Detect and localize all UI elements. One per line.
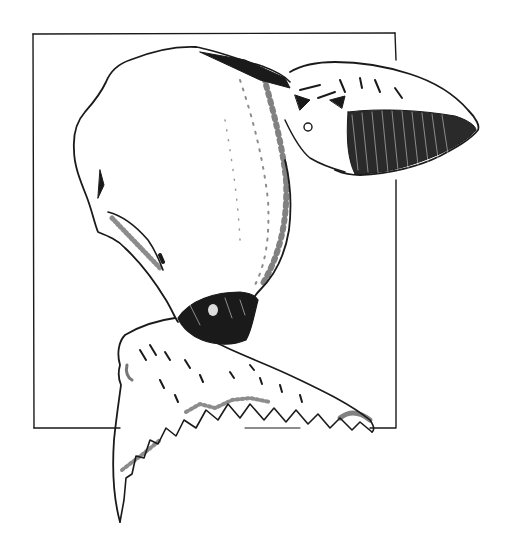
frame	[33, 33, 396, 428]
whale-illustration	[0, 0, 509, 556]
whale-neck-band	[178, 292, 258, 344]
whale-head	[285, 62, 479, 175]
whale-flukes	[113, 318, 373, 522]
whale-body	[74, 47, 291, 322]
